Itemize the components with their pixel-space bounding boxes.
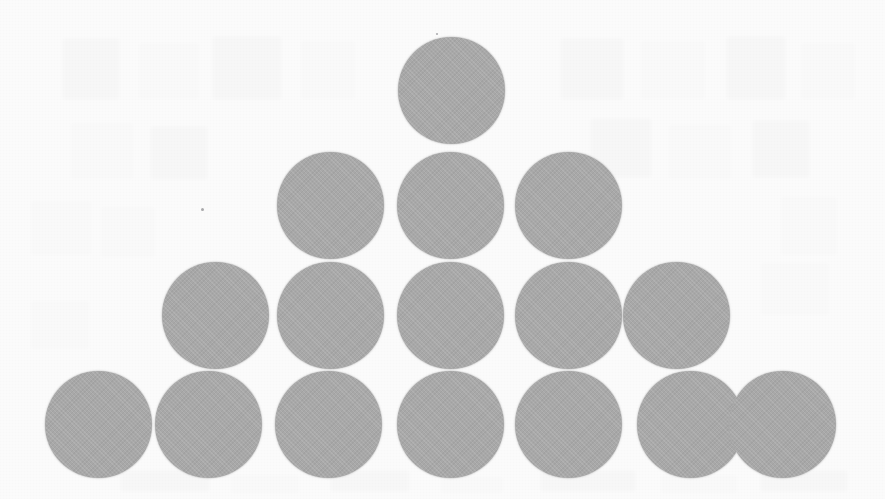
scanned-page	[0, 0, 885, 499]
circle-r4-c3	[275, 371, 382, 478]
circle-r4-c1	[45, 371, 152, 478]
circle-r4-c5	[515, 371, 622, 478]
circle-r3-c5	[623, 262, 730, 369]
circle-r1-c1	[398, 37, 505, 144]
circle-r3-c4	[515, 262, 622, 369]
circle-r3-c1	[162, 262, 269, 369]
circle-r2-c2	[397, 152, 504, 259]
circle-r3-c3	[397, 262, 504, 369]
circle-r4-c6	[637, 371, 744, 478]
circle-r4-c2	[155, 371, 262, 478]
circle-r4-c4	[397, 371, 504, 478]
circle-r2-c1	[277, 152, 384, 259]
circle-r3-c2	[277, 262, 384, 369]
circle-r2-c3	[515, 152, 622, 259]
circle-r4-c7	[729, 371, 836, 478]
circle-pyramid-figure	[0, 0, 885, 499]
